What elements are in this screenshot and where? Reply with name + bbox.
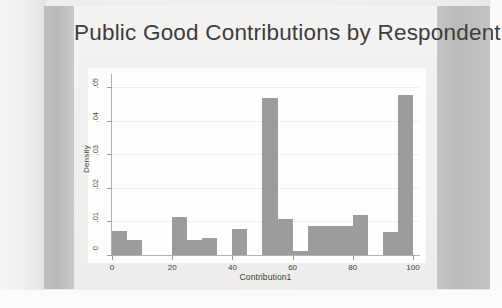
x-axis-title: Contribution1 bbox=[112, 272, 419, 282]
slide-photo: Public Good Contributions by Respondent … bbox=[0, 0, 502, 308]
y-axis-tick-label: .03 bbox=[92, 145, 419, 155]
y-axis-tick-label: .05 bbox=[92, 78, 419, 88]
y-axis-title: Density bbox=[82, 145, 91, 173]
histogram-bar bbox=[202, 238, 217, 255]
page-title: Public Good Contributions by Respondent bbox=[74, 20, 474, 46]
x-axis-tick-label: 60 bbox=[288, 263, 297, 272]
histogram-bar bbox=[262, 98, 277, 255]
y-axis-tick-label: .01 bbox=[92, 212, 419, 222]
y-axis-tick-label: .02 bbox=[92, 179, 419, 189]
x-axis-tick-label: 100 bbox=[406, 263, 419, 272]
x-axis-tick bbox=[112, 255, 113, 260]
slide-right-shadow-band bbox=[437, 6, 490, 289]
x-axis-tick bbox=[413, 255, 414, 260]
histogram-bar bbox=[172, 217, 187, 255]
histogram-bar bbox=[323, 226, 338, 255]
photo-bottom-margin bbox=[0, 290, 502, 308]
y-axis-tick-label: .04 bbox=[92, 112, 419, 122]
x-axis-tick bbox=[232, 255, 233, 260]
histogram-bar bbox=[338, 226, 353, 255]
histogram-bar bbox=[398, 95, 413, 255]
photo-left-margin bbox=[0, 0, 46, 296]
histogram-bar bbox=[232, 229, 247, 255]
x-axis-tick-label: 20 bbox=[168, 263, 177, 272]
histogram-bar bbox=[127, 240, 142, 255]
histogram-bar bbox=[293, 251, 308, 255]
histogram-bar bbox=[353, 215, 368, 255]
photo-right-margin bbox=[490, 0, 502, 308]
x-axis-tick bbox=[353, 255, 354, 260]
y-axis-line bbox=[111, 74, 112, 255]
x-axis-line bbox=[111, 255, 420, 256]
slide-left-shadow-band bbox=[44, 6, 74, 289]
histogram-bar bbox=[187, 240, 202, 255]
x-axis-tick bbox=[293, 255, 294, 260]
plot-area: 0.01.02.03.04.05020406080100 bbox=[112, 74, 419, 255]
histogram-bar bbox=[308, 226, 323, 255]
histogram-bar bbox=[383, 232, 398, 255]
x-axis-tick-label: 40 bbox=[228, 263, 237, 272]
histogram-bar bbox=[278, 219, 293, 255]
x-axis-tick-label: 80 bbox=[348, 263, 357, 272]
histogram-bar bbox=[112, 231, 127, 255]
x-axis-tick bbox=[172, 255, 173, 260]
x-axis-tick-label: 0 bbox=[110, 263, 114, 272]
